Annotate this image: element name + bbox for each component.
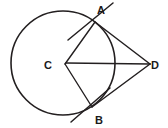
point-label-b: B — [95, 114, 103, 126]
geometry-figure: A B C D — [0, 0, 168, 128]
radius-segment-ca — [65, 22, 95, 64]
point-label-d: D — [151, 59, 159, 71]
segment-cd — [66, 63, 150, 64]
segment-ad — [95, 22, 150, 64]
radius-segment-cb — [65, 64, 92, 107]
segment-bd — [92, 64, 150, 107]
point-label-a: A — [97, 4, 105, 16]
point-label-c: C — [44, 59, 52, 71]
geometry-canvas: A B C D — [0, 0, 168, 128]
